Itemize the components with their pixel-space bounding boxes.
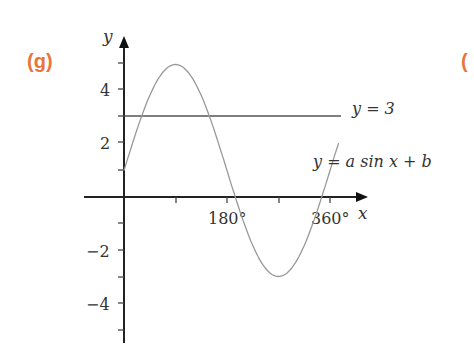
x-axis-arrow-icon <box>356 192 368 202</box>
tick-label-4: 4 <box>100 81 110 100</box>
y-axis-arrow-icon <box>119 36 129 48</box>
tick-label-m2: −2 <box>86 242 110 261</box>
sine-curve <box>124 65 339 277</box>
sine-graph: y x 4 2 −2 −4 180° 360° y = 3 y = a sin … <box>0 0 474 361</box>
curve-label: y = a sin x + b <box>312 152 432 171</box>
tick-label-2: 2 <box>100 134 110 153</box>
line-label-y-equals-3: y = 3 <box>351 99 395 118</box>
x-axis-label: x <box>358 203 368 223</box>
y-axis-label: y <box>102 26 113 46</box>
tick-label-m4: −4 <box>86 295 110 314</box>
